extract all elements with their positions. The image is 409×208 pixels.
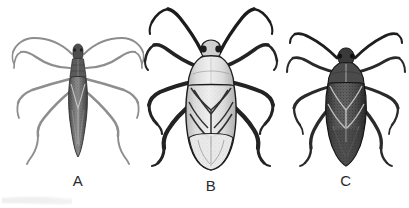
figure-b-body <box>186 40 236 170</box>
figure-plate: A <box>0 0 409 208</box>
figure-b <box>138 6 284 176</box>
figure-b-drawing <box>138 6 284 176</box>
figure-a-label: A <box>38 173 118 188</box>
figure-a <box>8 24 148 174</box>
figure-a-body <box>69 44 88 157</box>
figure-b-label: B <box>171 178 251 193</box>
figure-a-drawing <box>8 24 148 174</box>
figure-c-drawing <box>283 26 409 174</box>
figure-c-label: C <box>306 173 386 188</box>
figure-c-body <box>326 48 366 166</box>
figure-c <box>283 26 409 174</box>
page-edge-smudge <box>2 196 72 205</box>
